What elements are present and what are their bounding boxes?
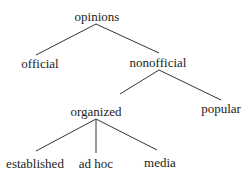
node-ad-hoc: ad hoc: [79, 157, 113, 170]
opinions-tree-diagram: opinions official nonofficial organized …: [0, 0, 251, 176]
edge-nonofficial-organized: [120, 70, 159, 94]
node-nonofficial: nonofficial: [130, 56, 187, 69]
node-official: official: [21, 57, 58, 70]
node-established: established: [6, 157, 64, 170]
edge-nonofficial-popular: [159, 70, 221, 100]
node-media: media: [144, 156, 176, 169]
edge-opinions-official: [36, 24, 96, 55]
node-organized: organized: [70, 105, 121, 118]
edge-organized-established: [36, 119, 96, 151]
edge-organized-media: [96, 119, 157, 150]
node-popular: popular: [201, 102, 241, 115]
node-opinions: opinions: [75, 10, 120, 23]
edge-opinions-nonofficial: [96, 24, 159, 53]
tree-edges: [0, 0, 251, 176]
